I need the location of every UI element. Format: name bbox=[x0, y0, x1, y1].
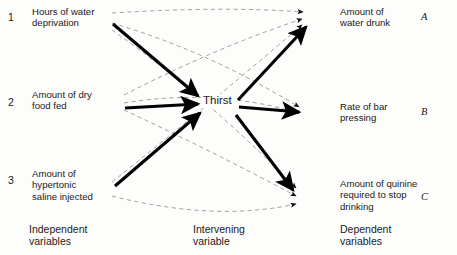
intervening-label-thirst: Thirst bbox=[201, 94, 234, 108]
independent-label-2: Amount of dry food fed bbox=[32, 89, 92, 112]
edge-thirst-to-A bbox=[238, 27, 306, 100]
dependent-label-A: Amount of water drunk bbox=[340, 6, 390, 29]
edge-1-to-A bbox=[112, 9, 303, 13]
dependent-label-C: Amount of quinine required to stop drink… bbox=[340, 178, 417, 212]
edge-thirst-to-B bbox=[239, 107, 299, 112]
diagram-canvas: 1 Hours of water deprivation 2 Amount of… bbox=[0, 0, 457, 255]
edge-2-to-C bbox=[124, 110, 296, 196]
independent-number-3: 3 bbox=[8, 174, 14, 186]
independent-label-1: Hours of water deprivation bbox=[32, 6, 94, 29]
diagram-edges-layer bbox=[0, 0, 457, 255]
dependent-label-B: Rate of bar pressing bbox=[340, 101, 387, 124]
edge-1-to-thirst bbox=[113, 24, 198, 96]
edge-3-to-C bbox=[112, 196, 296, 211]
independent-number-2: 2 bbox=[8, 96, 14, 108]
independent-number-1: 1 bbox=[8, 11, 14, 23]
group-label-independent: Independent variables bbox=[29, 223, 87, 248]
group-label-dependent: Dependent variables bbox=[340, 223, 391, 248]
edge-2-to-thirst bbox=[125, 104, 198, 108]
edge-3-to-thirst bbox=[115, 113, 200, 186]
independent-label-3: Amount of hypertonic saline injected bbox=[32, 168, 93, 202]
dependent-marker-A: A bbox=[421, 11, 427, 23]
dependent-marker-B: B bbox=[421, 106, 427, 118]
group-label-intervening: Intervening variable bbox=[193, 223, 245, 248]
dependent-marker-C: C bbox=[421, 191, 428, 203]
edge-thirst-to-C bbox=[236, 115, 293, 190]
